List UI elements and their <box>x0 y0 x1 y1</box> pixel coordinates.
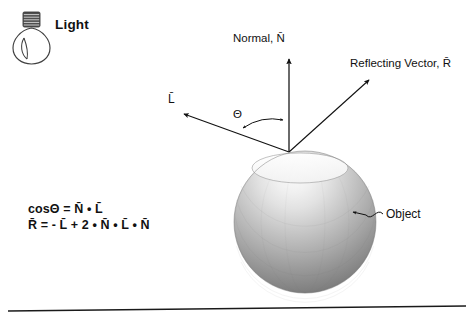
theta-angle-arc <box>243 119 283 128</box>
reflecting-vector-label: Reflecting Vector, R̄ <box>350 57 451 69</box>
equation-cos-theta: cosΘ = N̄ • L̄ <box>28 202 150 216</box>
equations-block: cosΘ = N̄ • L̄ R̄ = - L̄ + 2 • N̄ • L̄ •… <box>28 202 150 234</box>
object-sphere <box>234 151 376 302</box>
reflecting-vector <box>289 80 369 152</box>
normal-vector-label: Normal, N̄ <box>233 32 285 44</box>
lighting-diagram: Light Normal, N̄ Reflecting Vector, R̄ L… <box>0 0 473 323</box>
light-vector-label: L̄ <box>168 93 175 106</box>
diagram-canvas <box>0 0 473 323</box>
ground-line <box>8 306 466 311</box>
light-label: Light <box>55 18 89 32</box>
equation-reflection: R̄ = - L̄ + 2 • N̄ • L̄ • N̄ <box>28 218 150 232</box>
object-label: Object <box>386 208 421 221</box>
theta-label: Θ <box>233 108 242 120</box>
lightbulb-icon <box>13 12 50 64</box>
